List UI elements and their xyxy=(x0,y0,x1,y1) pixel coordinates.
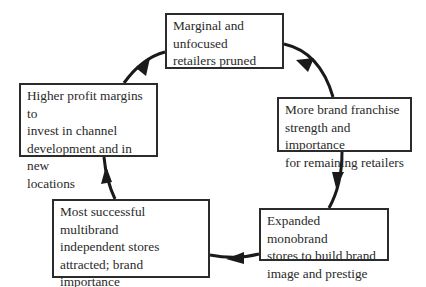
node-higher-profit-margins: Higher profit margins to invest in chann… xyxy=(19,83,158,157)
arrowhead-n5-n1 xyxy=(136,58,150,76)
node-multibrand-stores-attracted: Most successful multibrand independent s… xyxy=(52,199,210,278)
arrowhead-n1-n2 xyxy=(296,58,314,72)
node-monobrand-stores: Expanded monobrand stores to build brand… xyxy=(259,208,389,261)
arrowhead-n4-n5 xyxy=(101,166,112,184)
node-brand-franchise-strength: More brand franchise strength and import… xyxy=(277,97,412,152)
node-retailers-pruned: Marginal and unfocused retailers pruned xyxy=(165,13,284,69)
arrowhead-n3-n4 xyxy=(226,252,244,264)
